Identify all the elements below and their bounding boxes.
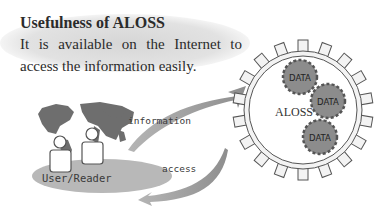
- data-gear-1: DATA: [283, 60, 317, 94]
- data-gear-label: DATA: [309, 133, 331, 143]
- information-label: information: [128, 115, 191, 126]
- data-gear-2: DATA: [311, 84, 345, 118]
- aloss-label: ALOSS: [275, 105, 313, 119]
- user-reader-label: User/Reader: [42, 172, 112, 184]
- data-gear-label: DATA: [317, 97, 339, 107]
- data-gear-3: DATA: [303, 120, 337, 154]
- aloss-diagram: User/Reader information access: [0, 0, 382, 215]
- access-label: access: [162, 163, 196, 174]
- data-gear-label: DATA: [289, 73, 311, 83]
